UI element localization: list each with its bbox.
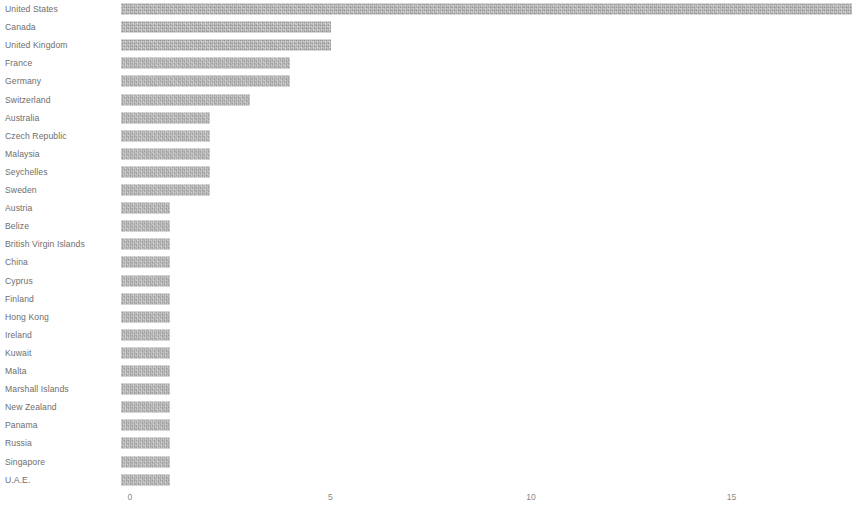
bar-category-label: Austria xyxy=(5,203,32,213)
bar-fill xyxy=(121,22,331,33)
bar-category-label: Hong Kong xyxy=(5,312,49,322)
bar-fill xyxy=(121,76,290,87)
bar-fill xyxy=(121,239,170,250)
bar-chart: United StatesCanadaUnited KingdomFranceG… xyxy=(0,0,853,514)
bar-fill xyxy=(121,40,331,51)
x-axis-tick-label: 0 xyxy=(128,492,133,503)
bar-fill xyxy=(121,112,210,123)
bar-track xyxy=(121,58,290,69)
bar-fill xyxy=(121,148,210,159)
bar-row: British Virgin Islands xyxy=(0,235,853,253)
bar-category-label: China xyxy=(5,257,28,267)
bar-row: Germany xyxy=(0,72,853,90)
bar-category-label: France xyxy=(5,58,32,68)
bar-track xyxy=(121,203,170,214)
bar-track xyxy=(121,40,331,51)
bar-fill xyxy=(121,474,170,485)
bar-fill xyxy=(121,185,210,196)
bar-row: Cyprus xyxy=(0,272,853,290)
bar-track xyxy=(121,148,210,159)
bar-row: New Zealand xyxy=(0,398,853,416)
bar-category-label: Marshall Islands xyxy=(5,384,69,394)
bar-row: Canada xyxy=(0,18,853,36)
bar-row: U.A.E. xyxy=(0,471,853,489)
bar-fill xyxy=(121,384,170,395)
bar-fill xyxy=(121,293,170,304)
plot-area: United StatesCanadaUnited KingdomFranceG… xyxy=(0,0,853,490)
bar-category-label: Finland xyxy=(5,294,34,304)
bar-row: Switzerland xyxy=(0,91,853,109)
bar-row: Russia xyxy=(0,434,853,452)
bar-category-label: Germany xyxy=(5,76,41,86)
bar-track xyxy=(121,329,170,340)
bar-category-label: United States xyxy=(5,4,58,14)
bar-track xyxy=(121,275,170,286)
bar-track xyxy=(121,311,170,322)
bar-fill xyxy=(121,311,170,322)
bar-track xyxy=(121,166,210,177)
bar-row: Hong Kong xyxy=(0,308,853,326)
bar-track xyxy=(121,4,852,15)
x-axis-tick-label: 5 xyxy=(328,492,333,503)
bar-category-label: Switzerland xyxy=(5,95,51,105)
bar-row: Malta xyxy=(0,362,853,380)
bar-category-label: Seychelles xyxy=(5,167,48,177)
bar-row: Ireland xyxy=(0,326,853,344)
bar-row: United States xyxy=(0,0,853,18)
bar-fill xyxy=(121,347,170,358)
bar-category-label: Czech Republic xyxy=(5,131,67,141)
bar-row: Kuwait xyxy=(0,344,853,362)
bar-category-label: Malaysia xyxy=(5,149,40,159)
bar-category-label: Malta xyxy=(5,366,27,376)
bar-fill xyxy=(121,130,210,141)
bar-track xyxy=(121,76,290,87)
bar-row: United Kingdom xyxy=(0,36,853,54)
bar-row: Finland xyxy=(0,290,853,308)
bar-category-label: U.A.E. xyxy=(5,475,30,485)
bar-fill xyxy=(121,203,170,214)
bar-category-label: New Zealand xyxy=(5,402,57,412)
x-axis-tick-label: 10 xyxy=(526,492,536,503)
bar-track xyxy=(121,456,170,467)
bar-fill xyxy=(121,420,170,431)
bar-fill xyxy=(121,4,852,15)
bar-track xyxy=(121,438,170,449)
bar-fill xyxy=(121,94,250,105)
bar-track xyxy=(121,112,210,123)
bar-category-label: Cyprus xyxy=(5,276,33,286)
bar-category-label: Australia xyxy=(5,113,39,123)
bar-fill xyxy=(121,456,170,467)
bar-track xyxy=(121,94,250,105)
bar-track xyxy=(121,239,170,250)
bar-row: Marshall Islands xyxy=(0,380,853,398)
bar-track xyxy=(121,221,170,232)
bar-category-label: Singapore xyxy=(5,457,45,467)
bar-track xyxy=(121,474,170,485)
bar-row: France xyxy=(0,54,853,72)
bar-fill xyxy=(121,275,170,286)
bar-track xyxy=(121,402,170,413)
bar-row: Seychelles xyxy=(0,163,853,181)
bar-track xyxy=(121,420,170,431)
bar-track xyxy=(121,366,170,377)
bar-row: Austria xyxy=(0,199,853,217)
bar-category-label: Sweden xyxy=(5,185,37,195)
bar-row: Australia xyxy=(0,109,853,127)
bar-category-label: Belize xyxy=(5,221,29,231)
bar-fill xyxy=(121,329,170,340)
bar-category-label: United Kingdom xyxy=(5,40,68,50)
bar-category-label: Panama xyxy=(5,420,38,430)
x-axis-tick-label: 15 xyxy=(727,492,737,503)
bar-row: Panama xyxy=(0,416,853,434)
bar-category-label: Canada xyxy=(5,22,36,32)
bar-category-label: British Virgin Islands xyxy=(5,239,85,249)
bar-fill xyxy=(121,221,170,232)
bar-fill xyxy=(121,58,290,69)
bar-fill xyxy=(121,438,170,449)
x-axis: 051015 xyxy=(0,490,853,514)
bar-track xyxy=(121,384,170,395)
bar-track xyxy=(121,293,170,304)
bar-category-label: Russia xyxy=(5,438,32,448)
bar-fill xyxy=(121,166,210,177)
bar-category-label: Ireland xyxy=(5,330,32,340)
